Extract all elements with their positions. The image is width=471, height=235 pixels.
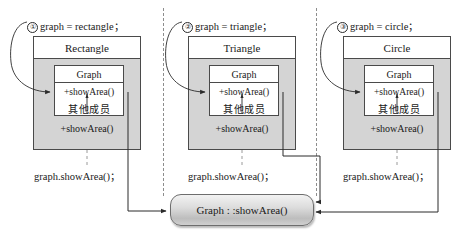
call-route-triangle	[283, 92, 320, 202]
bind-arrow-triangle	[166, 22, 205, 92]
bind-arrow-circle	[321, 22, 360, 92]
bind-arrow-rectangle	[11, 22, 50, 92]
graph-showarea-target: Graph : :showArea()	[170, 194, 314, 226]
diagram-canvas: ①graph = rectangle； Rectangle Graph +sho…	[0, 0, 471, 235]
call-route-rectangle	[128, 92, 166, 211]
call-route-circle	[316, 92, 438, 212]
